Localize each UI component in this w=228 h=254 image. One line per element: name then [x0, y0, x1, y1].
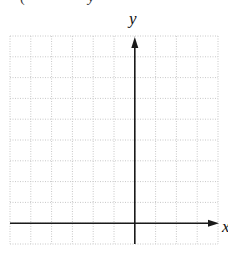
y-axis-label: y: [129, 10, 137, 27]
grid-lines: [10, 36, 218, 244]
x-axis-arrow-icon: [208, 220, 219, 227]
coordinate-grid: [0, 0, 228, 254]
y-axis-arrow-icon: [131, 37, 138, 48]
x-axis-label: x: [222, 218, 228, 235]
